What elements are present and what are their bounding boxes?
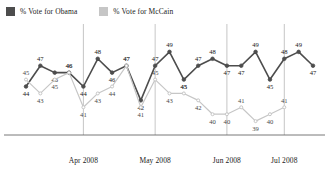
data-point <box>139 99 143 103</box>
data-label: 41 <box>238 97 245 104</box>
data-label: 42 <box>195 104 202 111</box>
x-axis-labels: Apr 2008May 2008Jun 2008Jul 2008 <box>0 153 329 175</box>
data-label: 47 <box>224 69 231 76</box>
data-point <box>53 71 57 75</box>
data-label: 43 <box>166 97 173 104</box>
data-point <box>254 50 258 54</box>
data-point <box>240 106 243 109</box>
data-label: 40 <box>224 118 231 125</box>
data-point <box>211 57 215 61</box>
data-point <box>283 57 287 61</box>
data-point <box>283 106 286 109</box>
data-point <box>82 106 85 109</box>
data-point <box>96 57 100 61</box>
data-label: 40 <box>209 118 216 125</box>
data-label: 47 <box>310 69 317 76</box>
data-label: 45 <box>152 69 159 76</box>
square-swatch-icon <box>6 7 15 16</box>
data-label: 39 <box>252 125 259 132</box>
data-point <box>111 85 114 88</box>
data-point <box>254 120 257 123</box>
data-label: 41 <box>138 111 145 118</box>
legend-entry-obama: % Vote for Obama <box>6 7 77 16</box>
data-label: 47 <box>152 55 159 62</box>
data-point <box>82 85 86 89</box>
data-point <box>211 113 214 116</box>
data-point <box>25 78 28 81</box>
data-point <box>196 64 200 68</box>
x-axis-tick-label: Jul 2008 <box>271 156 297 165</box>
data-label: 45 <box>51 83 58 90</box>
poll-trend-chart: % Vote for Obama % Vote for McCain 44474… <box>0 0 329 175</box>
data-label: 48 <box>94 48 101 55</box>
legend-label-obama: % Vote for Obama <box>20 7 77 16</box>
chart-legend: % Vote for Obama % Vote for McCain <box>0 0 329 22</box>
legend-label-mccain: % Vote for McCain <box>113 7 173 16</box>
data-point <box>268 113 271 116</box>
data-label: 41 <box>281 97 288 104</box>
data-point <box>225 113 228 116</box>
x-axis-tick-label: May 2008 <box>139 156 170 165</box>
data-point <box>182 92 185 95</box>
data-point <box>153 64 157 68</box>
data-label: 47 <box>37 55 44 62</box>
data-point <box>39 64 43 68</box>
data-label: 47 <box>195 55 202 62</box>
data-label: 45 <box>23 69 30 76</box>
data-label: 44 <box>23 90 30 97</box>
data-point <box>311 64 315 68</box>
data-label: 49 <box>166 41 173 48</box>
data-label: 47 <box>238 69 245 76</box>
data-label: 43 <box>181 83 188 90</box>
data-point <box>168 92 171 95</box>
data-label: 48 <box>209 48 216 55</box>
plot-area: 4447464644484647424749454748474749454849… <box>0 22 329 153</box>
x-axis-tick-label: Apr 2008 <box>69 156 98 165</box>
data-label: 49 <box>295 41 302 48</box>
data-point <box>110 71 114 75</box>
data-point <box>39 92 42 95</box>
data-point <box>154 78 157 81</box>
square-swatch-icon <box>99 7 108 16</box>
legend-entry-mccain: % Vote for McCain <box>99 7 173 16</box>
data-label: 43 <box>94 97 101 104</box>
data-label: 44 <box>80 90 87 97</box>
data-point <box>68 71 71 74</box>
chart-canvas: 4447464644484647424749454748474749454849… <box>0 22 329 153</box>
data-label: 45 <box>267 83 274 90</box>
data-label: 40 <box>267 118 274 125</box>
data-label: 46 <box>66 62 73 69</box>
data-label: 43 <box>37 97 44 104</box>
data-point <box>125 64 128 67</box>
data-point <box>197 99 200 102</box>
data-point <box>297 50 301 54</box>
data-label: 47 <box>123 55 130 62</box>
data-point <box>225 64 229 68</box>
data-label: 48 <box>281 48 288 55</box>
data-point <box>268 78 272 82</box>
data-label: 44 <box>109 90 116 97</box>
data-point <box>96 92 99 95</box>
data-point <box>182 78 186 82</box>
x-axis-tick-label: Jun 2008 <box>213 156 241 165</box>
data-label: 41 <box>80 111 87 118</box>
data-label: 49 <box>252 41 259 48</box>
data-point <box>139 106 142 109</box>
data-point <box>168 50 172 54</box>
data-point <box>53 78 56 81</box>
data-point <box>24 85 28 89</box>
data-point <box>239 64 243 68</box>
